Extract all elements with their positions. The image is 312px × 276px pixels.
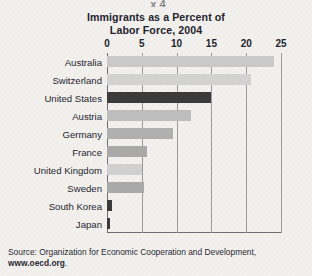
- x-tick-label-0: 0: [95, 38, 119, 50]
- bar-united-states: [107, 92, 211, 103]
- category-label-australia: Australia: [0, 57, 102, 68]
- title-line-2: Labor Force, 2004: [0, 24, 312, 37]
- plot-area: [107, 53, 281, 233]
- bar-france: [107, 146, 147, 157]
- category-label-france: France: [0, 147, 102, 158]
- category-label-germany: Germany: [0, 129, 102, 140]
- category-label-austria: Austria: [0, 111, 102, 122]
- chart-figure: x 4 Immigrants as a Percent of Labor For…: [0, 0, 312, 276]
- bar-austria: [107, 110, 191, 121]
- category-label-south-korea: South Korea: [0, 201, 102, 212]
- x-tick-label-15: 15: [199, 38, 223, 50]
- x-axis-baseline: [107, 232, 282, 233]
- y-axis-category-labels: AustraliaSwitzerlandUnited StatesAustria…: [0, 53, 102, 233]
- category-label-switzerland: Switzerland: [0, 75, 102, 86]
- bar-united-kingdom: [107, 164, 142, 175]
- bar-japan: [107, 218, 110, 229]
- category-label-united-states: United States: [0, 93, 102, 104]
- x-tick-label-25: 25: [269, 38, 293, 50]
- category-label-united-kingdom: United Kingdom: [0, 165, 102, 176]
- bar-australia: [107, 56, 274, 67]
- gridline-25: [281, 53, 282, 233]
- source-url[interactable]: www.oecd.org: [8, 258, 65, 268]
- category-label-japan: Japan: [0, 219, 102, 230]
- chart-title: Immigrants as a Percent of Labor Force, …: [0, 11, 312, 36]
- bar-switzerland: [107, 74, 251, 85]
- source-text: Source: Organization for Economic Cooper…: [8, 247, 256, 257]
- title-line-1: Immigrants as a Percent of: [87, 11, 225, 23]
- bar-south-korea: [107, 200, 112, 211]
- x-tick-label-10: 10: [165, 38, 189, 50]
- bar-sweden: [107, 182, 144, 193]
- top-clipped-text: x 4: [128, 0, 188, 7]
- x-axis-tick-labels: 0510152025: [0, 38, 312, 51]
- source-note: Source: Organization for Economic Cooper…: [8, 247, 308, 268]
- bar-germany: [107, 128, 173, 139]
- source-period: .: [65, 258, 67, 268]
- category-label-sweden: Sweden: [0, 183, 102, 194]
- x-tick-label-5: 5: [130, 38, 154, 50]
- x-tick-label-20: 20: [234, 38, 258, 50]
